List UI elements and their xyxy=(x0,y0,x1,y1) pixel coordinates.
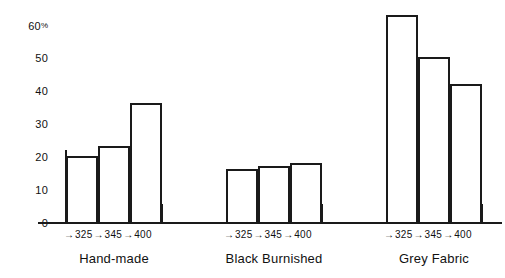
x-tick-label-345: 345 xyxy=(265,229,283,240)
cat-tick-black-burnished-left xyxy=(226,204,227,222)
y-axis-tick-30: 30 xyxy=(18,119,48,130)
arrow-icon: → xyxy=(254,229,263,240)
bar-black-burnished-325 xyxy=(226,169,258,222)
x-tick-label-400: 400 xyxy=(134,229,152,240)
x-axis-ticks-black-burnished: →325→345→400 xyxy=(224,230,313,240)
cat-tick-grey-fabric-1 xyxy=(418,204,419,222)
cat-tick-black-burnished-2 xyxy=(290,204,291,222)
y-axis-tick-40: 40 xyxy=(18,86,48,97)
arrow-icon: → xyxy=(414,229,423,240)
x-axis-ticks-handmade: →325→345→400 xyxy=(64,230,153,240)
cat-tick-black-burnished-right xyxy=(322,204,323,222)
arrow-icon: → xyxy=(443,229,452,240)
group-label-handmade: Hand-made xyxy=(54,252,174,266)
bar-handmade-325 xyxy=(66,156,98,222)
y-axis-tick-20: 20 xyxy=(18,152,48,163)
y-axis-tick-10-value: 10 xyxy=(35,184,48,196)
x-tick-label-400: 400 xyxy=(454,229,472,240)
group-label-grey-fabric: Grey Fabric xyxy=(374,252,494,266)
y-axis-tick-20-value: 20 xyxy=(35,151,48,163)
arrow-icon: → xyxy=(64,229,73,240)
arrow-icon: → xyxy=(94,229,103,240)
x-tick-label-345: 345 xyxy=(105,229,123,240)
cat-tick-black-burnished-1 xyxy=(258,204,259,222)
cat-tick-handmade-right xyxy=(162,204,163,222)
y-axis-tick-60-value: 60 xyxy=(28,20,41,32)
x-axis-line xyxy=(38,222,502,224)
x-axis-ticks-grey-fabric: →325→345→400 xyxy=(384,230,473,240)
y-axis-tick-60: 60% xyxy=(18,20,48,32)
x-tick-label-345: 345 xyxy=(425,229,443,240)
x-tick-label-325: 325 xyxy=(235,229,253,240)
bar-handmade-400 xyxy=(130,103,162,222)
bar-handmade-345 xyxy=(98,146,130,222)
cat-tick-handmade-1 xyxy=(98,204,99,222)
bar-grey-fabric-400 xyxy=(450,84,482,222)
bar-grey-fabric-345 xyxy=(418,57,450,222)
cat-tick-grey-fabric-right xyxy=(482,204,483,222)
cat-tick-grey-fabric-left xyxy=(386,204,387,222)
arrow-icon: → xyxy=(283,229,292,240)
bar-black-burnished-345 xyxy=(258,166,290,222)
x-tick-label-325: 325 xyxy=(395,229,413,240)
y-axis-tick-30-value: 30 xyxy=(35,118,48,130)
arrow-icon: → xyxy=(123,229,132,240)
y-axis-tick-50: 50 xyxy=(18,53,48,64)
cat-tick-handmade-2 xyxy=(130,204,131,222)
bar-chart: 60% 50 40 30 20 10 0 →325→345→400 Hand-m… xyxy=(0,0,505,278)
cat-tick-grey-fabric-2 xyxy=(450,204,451,222)
group-label-black-burnished: Black Burnished xyxy=(204,252,344,266)
y-axis-tick-10: 10 xyxy=(18,185,48,196)
y-axis-tick-50-value: 50 xyxy=(35,52,48,64)
x-tick-label-400: 400 xyxy=(294,229,312,240)
cat-tick-handmade-left xyxy=(66,204,67,222)
bar-black-burnished-400 xyxy=(290,163,322,222)
arrow-icon: → xyxy=(384,229,393,240)
percent-symbol: % xyxy=(41,21,48,30)
arrow-icon: → xyxy=(224,229,233,240)
y-axis-tick-40-value: 40 xyxy=(35,85,48,97)
x-tick-label-325: 325 xyxy=(75,229,93,240)
bar-grey-fabric-325 xyxy=(386,15,418,222)
